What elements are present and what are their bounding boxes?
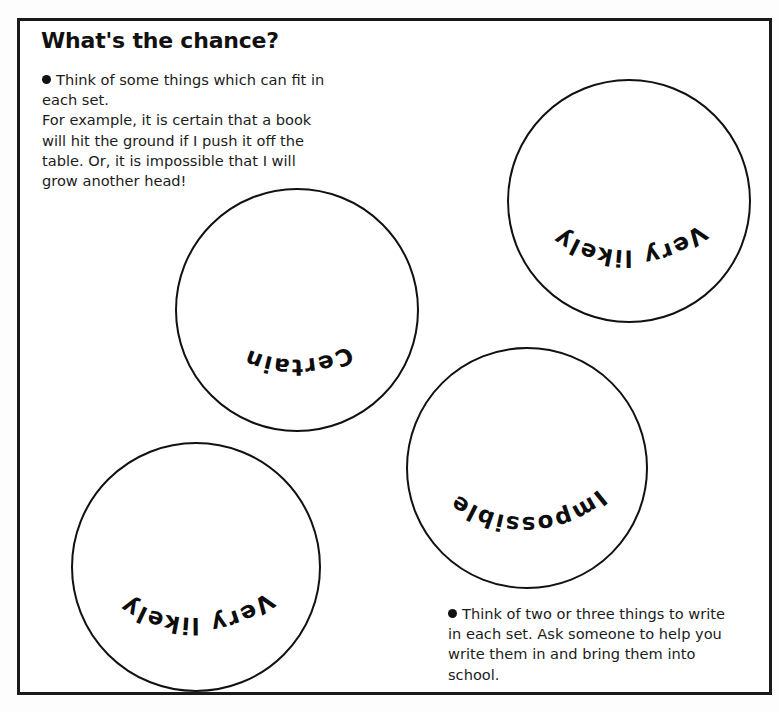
instruction-text: Think of two or three things to write: [462, 605, 725, 622]
instruction-top-line-4: table. Or, it is impossible that I will: [42, 151, 342, 171]
bullet-icon: [42, 75, 51, 84]
bullet-icon: [448, 609, 457, 618]
worksheet-page: What's the chance? Think of some things …: [0, 0, 779, 712]
page-title: What's the chance?: [41, 28, 279, 53]
instruction-top-line-3: will hit the ground if I push it off the: [42, 131, 342, 151]
instruction-text: Think of some things which can fit in: [56, 71, 324, 88]
instruction-block-top: Think of some things which can fit in ea…: [42, 70, 342, 191]
instruction-top-line-1: each set.: [42, 90, 342, 110]
instruction-bottom-line-0: Think of two or three things to write: [448, 604, 748, 624]
instruction-block-bottom: Think of two or three things to write in…: [448, 604, 748, 685]
set-circle-certain[interactable]: [176, 189, 418, 431]
instruction-bottom-line-3: school.: [448, 665, 748, 685]
set-circle-very-likely-top-right[interactable]: [508, 80, 750, 322]
set-circle-very-likely-bottom-left[interactable]: [72, 443, 320, 691]
instruction-bottom-line-2: write them in and bring them into: [448, 644, 748, 664]
instruction-top-line-0: Think of some things which can fit in: [42, 70, 342, 90]
instruction-top-line-2: For example, it is certain that a book: [42, 110, 342, 130]
set-circle-impossible[interactable]: [407, 348, 647, 588]
instruction-bottom-line-1: in each set. Ask someone to help you: [448, 624, 748, 644]
